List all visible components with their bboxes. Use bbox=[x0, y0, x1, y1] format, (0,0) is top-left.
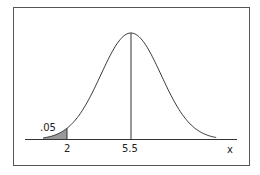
critical-value-tick-label: 2 bbox=[64, 143, 70, 154]
tail-area-label: .05 bbox=[40, 122, 56, 133]
normal-curve bbox=[43, 33, 216, 138]
mean-tick-label: 5.5 bbox=[122, 143, 138, 154]
x-axis-label: x bbox=[227, 144, 233, 155]
normal-distribution-chart: .05 2 5.5 x bbox=[0, 0, 260, 175]
